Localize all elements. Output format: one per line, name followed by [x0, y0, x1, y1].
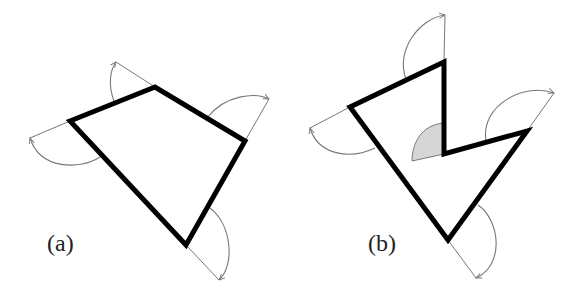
convex-quadrilateral: [70, 87, 245, 245]
exterior-angle-arc: [310, 128, 375, 154]
extension-line: [527, 93, 554, 131]
extension-line: [245, 99, 269, 141]
shaded-negative-angle: [412, 123, 444, 161]
extension-line: [310, 107, 350, 128]
panel-b: [310, 15, 554, 278]
extension-line: [30, 121, 70, 138]
extension-line: [186, 245, 219, 280]
extension-line: [448, 240, 476, 278]
exterior-angle-arc: [208, 96, 269, 117]
exterior-angle-arc: [110, 62, 116, 101]
extension-line: [116, 62, 155, 87]
extension-line: [444, 15, 445, 62]
panel-a-label: (a): [47, 230, 74, 257]
exterior-angle-arc: [210, 208, 229, 280]
panel-b-label: (b): [368, 230, 396, 257]
exterior-angle-arc: [476, 205, 496, 278]
exterior-angle-figure: [0, 0, 580, 295]
